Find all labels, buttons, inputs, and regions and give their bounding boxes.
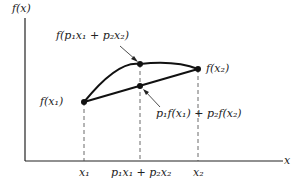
point-chord xyxy=(137,83,143,89)
point-fx1 xyxy=(81,99,87,105)
point-fx2 xyxy=(195,66,201,72)
upper-point-label: f(p₁x₁ + p₂x₂) xyxy=(56,30,129,41)
x-axis-label: x xyxy=(284,155,290,166)
right-point-label: f(x₂) xyxy=(206,63,229,74)
chord-point-label: p₁f(x₁) + p₂f(x₂) xyxy=(156,108,242,119)
tick-x2: x₂ xyxy=(193,167,204,178)
tick-x1: x₁ xyxy=(79,167,90,178)
tick-mid: p₁x₁ + p₂x₂ xyxy=(111,167,171,178)
left-point-label: f(x₁) xyxy=(40,96,63,107)
y-axis-label: f(x) xyxy=(12,3,31,14)
